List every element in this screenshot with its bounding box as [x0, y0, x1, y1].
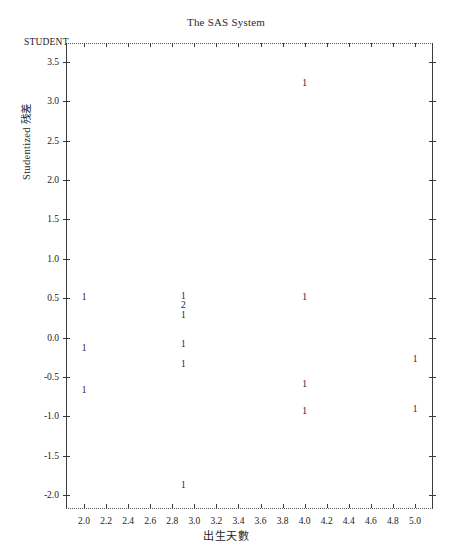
data-point: 1 [178, 311, 188, 321]
y-tick-right-1.5 [429, 219, 436, 220]
x-tick-top-2.2 [106, 43, 107, 47]
x-tick-bottom-4.0 [305, 504, 306, 508]
plot-border-bottom [66, 508, 433, 509]
y-variable-label: STUDENT [24, 37, 69, 47]
x-tick-top-4.8 [393, 43, 394, 47]
y-tick-label: -1.5 [26, 451, 59, 461]
data-point: 1 [410, 405, 420, 415]
y-tick-0.5 [63, 298, 70, 299]
sas-plot-page: The SAS System STUDENT Studentized 残差 出生… [0, 0, 452, 556]
data-point: 1 [410, 355, 420, 365]
x-tick-top-2.0 [84, 43, 85, 47]
y-tick-1.5 [63, 219, 70, 220]
y-tick-right-3.0 [429, 101, 436, 102]
y-tick-neg1.5 [63, 456, 70, 457]
y-tick-label: 2.0 [26, 175, 59, 185]
x-tick-top-3.2 [216, 43, 217, 47]
y-tick-label: -1.0 [26, 411, 59, 421]
x-tick-top-2.8 [172, 43, 173, 47]
y-tick-right-neg0.5 [429, 377, 436, 378]
data-point: 1 [178, 481, 188, 491]
x-tick-bottom-4.6 [371, 504, 372, 508]
y-tick-neg0.5 [63, 377, 70, 378]
data-point: 1 [300, 380, 310, 390]
x-tick-bottom-2.0 [84, 504, 85, 508]
y-tick-neg2.0 [63, 495, 70, 496]
x-tick-bottom-3.8 [283, 504, 284, 508]
data-point: 1 [300, 407, 310, 417]
data-point: 1 [300, 79, 310, 89]
y-tick-right-neg1.0 [429, 416, 436, 417]
x-tick-top-3.8 [283, 43, 284, 47]
y-tick-label: 1.5 [26, 214, 59, 224]
y-tick-label: 0.0 [26, 333, 59, 343]
y-tick-label: 2.5 [26, 136, 59, 146]
x-tick-top-2.6 [150, 43, 151, 47]
x-tick-top-4.4 [349, 43, 350, 47]
data-point: 1 [79, 293, 89, 303]
y-tick-label: 3.0 [26, 96, 59, 106]
x-tick-top-2.4 [128, 43, 129, 47]
x-tick-bottom-2.6 [150, 504, 151, 508]
x-tick-bottom-2.4 [128, 504, 129, 508]
data-point: 1 [79, 386, 89, 396]
x-tick-top-3.0 [194, 43, 195, 47]
x-tick-bottom-3.2 [216, 504, 217, 508]
x-tick-bottom-3.4 [238, 504, 239, 508]
y-tick-right-neg2.0 [429, 495, 436, 496]
y-tick-3.5 [63, 62, 70, 63]
x-tick-top-4.2 [327, 43, 328, 47]
y-tick-right-2.5 [429, 141, 436, 142]
x-tick-top-5.0 [415, 43, 416, 47]
y-tick-1.0 [63, 259, 70, 260]
plot-area: 3.53.02.52.01.51.00.50.0-0.5-1.0-1.5-2.0… [66, 43, 433, 508]
data-point: 1 [300, 293, 310, 303]
plot-border-top [66, 43, 433, 44]
y-tick-right-0.5 [429, 298, 436, 299]
y-tick-right-1.0 [429, 259, 436, 260]
data-point: 1 [178, 360, 188, 370]
page-title: The SAS System [0, 16, 452, 28]
data-point: 1 [178, 340, 188, 350]
x-axis-title: 出生天數 [0, 527, 452, 543]
y-axis-line-right [432, 43, 433, 508]
y-axis-line [66, 43, 67, 508]
y-tick-label: 0.5 [26, 293, 59, 303]
x-tick-label: 5.0 [402, 516, 428, 526]
data-point: 1 [79, 344, 89, 354]
x-tick-top-3.4 [238, 43, 239, 47]
x-tick-top-3.6 [261, 43, 262, 47]
y-tick-label: 1.0 [26, 254, 59, 264]
x-tick-bottom-4.4 [349, 504, 350, 508]
y-tick-label: -0.5 [26, 372, 59, 382]
x-tick-bottom-4.8 [393, 504, 394, 508]
y-tick-3.0 [63, 101, 70, 102]
y-tick-right-2.0 [429, 180, 436, 181]
y-tick-2.5 [63, 141, 70, 142]
y-tick-right-0.0 [429, 338, 436, 339]
x-tick-bottom-4.2 [327, 504, 328, 508]
x-tick-bottom-2.2 [106, 504, 107, 508]
y-tick-label: 3.5 [26, 57, 59, 67]
y-tick-right-3.5 [429, 62, 436, 63]
x-tick-bottom-5.0 [415, 504, 416, 508]
y-tick-2.0 [63, 180, 70, 181]
y-tick-label: -2.0 [26, 490, 59, 500]
y-tick-0.0 [63, 338, 70, 339]
x-tick-top-4.6 [371, 43, 372, 47]
x-tick-bottom-3.0 [194, 504, 195, 508]
x-tick-bottom-2.8 [172, 504, 173, 508]
y-tick-right-neg1.5 [429, 456, 436, 457]
x-tick-top-4.0 [305, 43, 306, 47]
x-tick-bottom-3.6 [261, 504, 262, 508]
y-tick-neg1.0 [63, 416, 70, 417]
